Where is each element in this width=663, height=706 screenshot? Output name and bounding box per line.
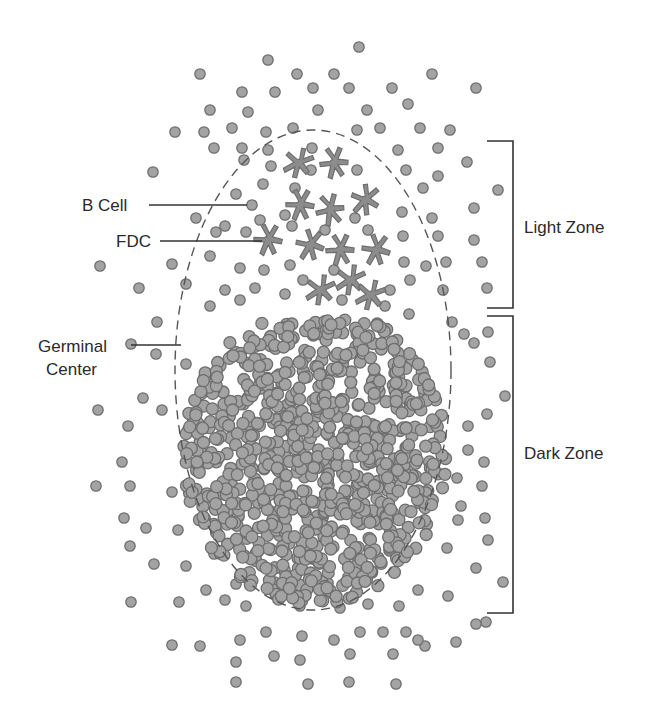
b-cell [297, 504, 309, 516]
b-cell [361, 443, 373, 455]
b-cell [421, 261, 431, 271]
b-cell [210, 433, 222, 445]
b-cell [442, 543, 452, 553]
b-cell [485, 357, 495, 367]
b-cell [390, 377, 402, 389]
b-cell [401, 165, 411, 175]
b-cell [413, 635, 423, 645]
b-cell [190, 409, 202, 421]
b-cell [167, 640, 177, 650]
b-cell [451, 637, 461, 647]
b-cell [191, 213, 201, 223]
b-cell [226, 497, 238, 509]
b-cell [415, 424, 427, 436]
b-cell [393, 145, 403, 155]
b-cell [415, 123, 425, 133]
b-cell [258, 494, 270, 506]
b-cell [279, 367, 291, 379]
fdc-cell [350, 183, 381, 216]
b-cell [364, 547, 376, 559]
dark-zone-label: Dark Zone [524, 444, 603, 463]
b-cell [394, 601, 404, 611]
b-cell [263, 543, 275, 555]
b-cell [408, 486, 420, 498]
b-cell [398, 231, 408, 241]
b-cell [362, 105, 372, 115]
b-cell [255, 215, 265, 225]
b-cell [325, 319, 337, 331]
b-cell [292, 69, 302, 79]
b-cell [375, 556, 387, 568]
b-cell [420, 440, 432, 452]
b-cell [329, 69, 339, 79]
b-cell [297, 631, 307, 641]
b-cell [195, 641, 205, 651]
b-cell [314, 369, 326, 381]
b-cell [240, 499, 252, 511]
b-cell [235, 635, 245, 645]
b-cell [368, 363, 380, 375]
b-cell [375, 123, 385, 133]
b-cell [231, 189, 241, 199]
b-cell [259, 436, 271, 448]
b-cell [364, 516, 376, 528]
b-cell [241, 601, 251, 611]
b-cell [439, 468, 451, 480]
b-cell [276, 545, 288, 557]
b-cell [301, 413, 313, 425]
b-cell [314, 594, 326, 606]
b-cell [345, 376, 357, 388]
b-cell [259, 265, 269, 275]
fdc-cell [315, 143, 353, 182]
b-cell [336, 432, 348, 444]
b-cell [344, 677, 354, 687]
b-cell [305, 575, 317, 587]
b-cell [181, 279, 191, 289]
b-cell [93, 405, 103, 415]
b-cell [355, 627, 365, 637]
b-cell [433, 143, 443, 153]
b-cell [471, 563, 481, 573]
b-cell [350, 416, 362, 428]
b-cell [304, 550, 316, 562]
b-cell-label: B Cell [82, 196, 127, 215]
b-cell [173, 525, 183, 535]
b-cell [205, 105, 215, 115]
b-cell [404, 309, 414, 319]
b-cell [181, 359, 191, 369]
b-cell [477, 257, 487, 267]
b-cell [405, 506, 417, 518]
b-cell [471, 619, 481, 629]
b-cell [403, 99, 413, 109]
b-cell [308, 328, 320, 340]
b-cell [292, 440, 304, 452]
b-cell [321, 582, 333, 594]
b-cell [411, 454, 423, 466]
b-cell [220, 285, 230, 295]
b-cell [410, 398, 422, 410]
b-cell [482, 283, 492, 293]
b-cell [342, 561, 354, 573]
b-cell [288, 531, 300, 543]
b-cell [322, 448, 334, 460]
b-cell [437, 482, 449, 494]
b-cell [266, 161, 276, 171]
b-cell [441, 257, 451, 267]
b-cell [380, 301, 390, 311]
b-cell [313, 105, 323, 115]
b-cell [368, 388, 380, 400]
fdc-label: FDC [116, 232, 151, 251]
germinal-label-line2: Center [46, 360, 97, 379]
b-cell [426, 414, 438, 426]
b-cell [237, 551, 249, 563]
b-cell [213, 530, 225, 542]
b-cell [283, 582, 295, 594]
b-cell [481, 617, 491, 627]
b-cell [325, 543, 337, 555]
b-cell [336, 527, 348, 539]
b-cell [353, 399, 365, 411]
b-cell [433, 231, 443, 241]
b-cell [211, 371, 223, 383]
b-cell [391, 679, 401, 689]
b-cell [195, 386, 207, 398]
